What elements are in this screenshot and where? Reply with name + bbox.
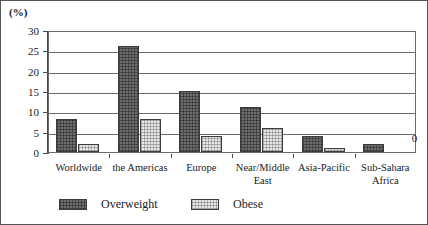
legend-label: Obese bbox=[233, 198, 263, 211]
gridline bbox=[49, 93, 415, 94]
x-label-line: Worldwide bbox=[48, 161, 109, 174]
x-axis-category-label: Asia-Pacific bbox=[293, 161, 354, 174]
x-label-line: East bbox=[232, 174, 293, 187]
legend-swatch bbox=[191, 199, 219, 210]
y-tick-label: 10 bbox=[1, 107, 39, 118]
y-tick-label: 0 bbox=[1, 148, 39, 159]
chart-figure: (%) 051015202530 0 Worldwidethe Americas… bbox=[0, 0, 428, 225]
y-tick-label: 15 bbox=[1, 87, 39, 98]
x-tick-mark bbox=[355, 154, 356, 158]
legend-item-overweight: Overweight bbox=[59, 194, 158, 214]
bar-value-annotation: 0 bbox=[412, 133, 418, 144]
y-tick-label: 30 bbox=[1, 26, 39, 37]
x-label-line: Africa bbox=[355, 174, 416, 187]
legend-swatch bbox=[59, 199, 87, 210]
bar-obese bbox=[262, 128, 283, 152]
x-axis-category-label: the Americas bbox=[109, 161, 170, 174]
bar-obese bbox=[324, 148, 345, 152]
x-axis-category-label: Sub-SaharaAfrica bbox=[355, 161, 416, 187]
bar-obese bbox=[140, 119, 161, 152]
x-label-line: the Americas bbox=[109, 161, 170, 174]
bar-obese bbox=[201, 136, 222, 152]
bar-overweight bbox=[302, 136, 323, 152]
plot-area: 0 bbox=[48, 31, 416, 153]
x-label-line: Near/Middle bbox=[232, 161, 293, 174]
x-axis-category-label: Near/MiddleEast bbox=[232, 161, 293, 187]
y-tick-label: 5 bbox=[1, 128, 39, 139]
x-label-line: Europe bbox=[171, 161, 232, 174]
y-tick-label: 20 bbox=[1, 67, 39, 78]
x-label-line: Asia-Pacific bbox=[293, 161, 354, 174]
x-tick-mark bbox=[293, 154, 294, 158]
x-tick-mark bbox=[232, 154, 233, 158]
gridline bbox=[49, 73, 415, 74]
bar-overweight bbox=[363, 144, 384, 152]
gridline bbox=[49, 113, 415, 114]
bar-overweight bbox=[56, 119, 77, 152]
x-tick-mark bbox=[109, 154, 110, 158]
x-label-line: Sub-Sahara bbox=[355, 161, 416, 174]
x-axis-category-label: Worldwide bbox=[48, 161, 109, 174]
y-axis-unit-label: (%) bbox=[9, 6, 27, 18]
legend-label: Overweight bbox=[101, 198, 158, 211]
gridline bbox=[49, 52, 415, 53]
bar-obese bbox=[78, 144, 99, 152]
bar-overweight bbox=[240, 107, 261, 152]
gridline bbox=[49, 134, 415, 135]
bar-overweight bbox=[118, 46, 139, 152]
bar-overweight bbox=[179, 91, 200, 152]
x-tick-mark bbox=[171, 154, 172, 158]
legend-item-obese: Obese bbox=[191, 194, 263, 214]
chart-legend: OverweightObese bbox=[1, 194, 428, 218]
x-axis-category-label: Europe bbox=[171, 161, 232, 174]
y-tick-label: 25 bbox=[1, 46, 39, 57]
